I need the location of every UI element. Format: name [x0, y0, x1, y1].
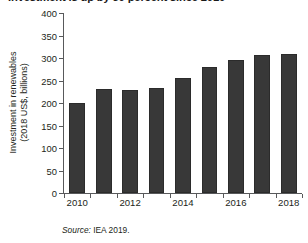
- source-keyword: Source:: [62, 225, 91, 235]
- y-axis-tick-label: 150: [17, 120, 57, 131]
- x-axis-tick: [249, 194, 250, 198]
- x-axis-tick: [170, 194, 171, 198]
- x-axis-tick-label: 2012: [119, 197, 140, 208]
- y-axis-tick-label: 250: [17, 75, 57, 86]
- x-axis-tick: [90, 194, 91, 198]
- x-axis-tick-label: 2018: [278, 197, 299, 208]
- y-axis-tick-label: 400: [17, 8, 57, 19]
- y-axis-tick-label: 350: [17, 30, 57, 41]
- x-axis-tick: [276, 194, 277, 198]
- x-axis-tick: [196, 194, 197, 198]
- source-note: Source: IEA 2019.: [62, 225, 130, 235]
- y-axis-tick-label: 50: [17, 165, 57, 176]
- x-axis-tick-label: 2016: [225, 197, 246, 208]
- y-axis-tick-label: 0: [17, 188, 57, 199]
- bar[interactable]: [122, 90, 138, 194]
- chart-figure: Investment is up by 50 percent since 201…: [0, 0, 308, 243]
- source-text: IEA 2019.: [93, 225, 129, 235]
- bar[interactable]: [254, 55, 270, 193]
- bar[interactable]: [149, 88, 165, 193]
- x-axis-tick: [64, 194, 65, 198]
- bar[interactable]: [96, 89, 112, 193]
- plot-area: 050100150200250300350400 201020122014201…: [63, 13, 302, 194]
- bar[interactable]: [202, 67, 218, 193]
- bar-series: [64, 13, 302, 193]
- x-axis-tick-label: 2010: [67, 197, 88, 208]
- bar[interactable]: [281, 54, 297, 193]
- x-axis-line: [63, 193, 302, 194]
- x-axis-tick-label: 2014: [172, 197, 193, 208]
- bar[interactable]: [228, 60, 244, 193]
- x-axis-tick: [143, 194, 144, 198]
- chart-title: Investment is up by 50 percent since 201…: [8, 0, 304, 3]
- x-axis-tick: [302, 194, 303, 198]
- x-axis-tick: [223, 194, 224, 198]
- y-axis-tick-label: 300: [17, 53, 57, 64]
- y-axis-tick-label: 100: [17, 143, 57, 154]
- bar[interactable]: [175, 78, 191, 193]
- y-axis-tick-label: 200: [17, 98, 57, 109]
- x-axis-tick: [117, 194, 118, 198]
- bar[interactable]: [69, 103, 85, 193]
